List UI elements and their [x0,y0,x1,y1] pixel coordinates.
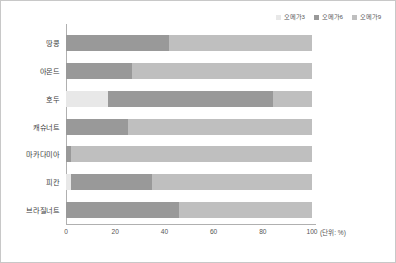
legend-swatch-omega6 [314,15,319,20]
plot-area: 땅콩아몬드호두캐슈너트마카다미아피칸브라질너트 020406080100 (단위… [66,29,312,224]
x-tick-label-60: 60 [210,228,217,235]
legend-label-omega9: 오메가9 [360,14,381,20]
x-tick-label-80: 80 [259,228,266,235]
bar-segment-오메가9[interactable] [273,91,312,107]
stacked-bar[interactable] [66,174,312,190]
bar-segment-오메가9[interactable] [128,119,313,135]
bar-row: 땅콩 [66,29,312,57]
bar-segment-오메가6[interactable] [66,119,128,135]
legend-item-omega3[interactable]: 오메가3 [276,14,305,20]
stacked-bar[interactable] [66,146,312,162]
bar-segment-오메가6[interactable] [108,91,273,107]
bar-segment-오메가6[interactable] [71,174,152,190]
legend-label-omega6: 오메가6 [322,14,343,20]
stacked-bar[interactable] [66,202,312,218]
bar-row: 마카다미아 [66,140,312,168]
bar-segment-오메가9[interactable] [71,146,312,162]
unit-label: (단위: %) [320,227,346,237]
category-label-0: 땅콩 [46,38,60,48]
chart-legend: 오메가3 오메가6 오메가9 [276,14,381,20]
stacked-bar-chart: 오메가3 오메가6 오메가9 땅콩아몬드호두캐슈너트마카다미아피칸브라질너트 0… [0,0,396,263]
bar-segment-오메가6[interactable] [66,202,179,218]
x-tick-label-20: 20 [112,228,119,235]
bar-segment-오메가9[interactable] [169,35,312,51]
x-axis-line [66,224,316,225]
legend-label-omega3: 오메가3 [284,14,305,20]
x-tick-label-0: 0 [64,228,68,235]
stacked-bar[interactable] [66,35,312,51]
legend-item-omega9[interactable]: 오메가9 [352,14,381,20]
category-label-3: 캐슈너트 [33,122,60,132]
category-label-5: 피칸 [46,177,60,187]
stacked-bar[interactable] [66,119,312,135]
category-label-1: 아몬드 [40,66,60,76]
bar-row: 브라질너트 [66,196,312,224]
stacked-bar[interactable] [66,63,312,79]
bar-row: 캐슈너트 [66,113,312,141]
bar-segment-오메가9[interactable] [132,63,312,79]
category-label-2: 호두 [46,94,60,104]
bar-row: 호두 [66,85,312,113]
bar-segment-오메가9[interactable] [179,202,312,218]
stacked-bar[interactable] [66,91,312,107]
bar-segment-오메가6[interactable] [66,63,132,79]
legend-swatch-omega3 [276,15,281,20]
x-tick-label-40: 40 [161,228,168,235]
bar-segment-오메가6[interactable] [66,35,169,51]
category-label-4: 마카다미아 [26,149,60,159]
bar-segment-오메가3[interactable] [66,91,108,107]
bar-segment-오메가9[interactable] [152,174,312,190]
bar-rows: 땅콩아몬드호두캐슈너트마카다미아피칸브라질너트 [66,29,312,224]
x-axis-tick-labels: 020406080100 [66,228,312,240]
category-label-6: 브라질너트 [26,205,60,215]
legend-swatch-omega9 [352,15,357,20]
legend-item-omega6[interactable]: 오메가6 [314,14,343,20]
x-tick-label-100: 100 [306,228,317,235]
bar-row: 피칸 [66,168,312,196]
bar-row: 아몬드 [66,57,312,85]
